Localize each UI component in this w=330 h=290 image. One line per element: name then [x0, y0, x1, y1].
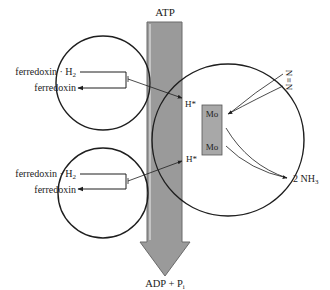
- dinitrogen-binding-arrow: [228, 86, 283, 114]
- mo-top-label: Mo: [206, 109, 219, 119]
- energy-arrow: [140, 22, 190, 276]
- lower-ferredoxin-label: ferredoxin: [34, 184, 76, 195]
- adp-pi-label: ADP + Pi: [145, 278, 185, 290]
- atp-label: ATP: [155, 6, 175, 18]
- svg-text:N: N: [284, 70, 294, 77]
- nitrogenase-diagram: ATP ADP + Pi Mo Mo ferredoxin · H2 ferre…: [0, 0, 330, 290]
- ammonia-label: 2 NH3: [293, 173, 319, 186]
- lower-ferredoxin-h2-label: ferredoxin · H2: [15, 168, 76, 181]
- upper-ferredoxin-label: ferredoxin: [34, 82, 76, 93]
- dinitrogen-label: N ≡ N: [284, 70, 294, 91]
- lower-ferredoxin-bracket: [80, 174, 126, 189]
- svg-text:≡: ≡: [284, 77, 294, 82]
- svg-text:N: N: [284, 84, 294, 91]
- lower-h-star-label: H*: [186, 154, 197, 164]
- mo-bottom-label: Mo: [206, 142, 219, 152]
- upper-ferredoxin-bracket: [80, 72, 126, 88]
- ammonia-release-line-1: [226, 128, 287, 178]
- upper-h-star-label: H*: [185, 99, 196, 109]
- upper-ferredoxin-h2-label: ferredoxin · H2: [15, 66, 76, 79]
